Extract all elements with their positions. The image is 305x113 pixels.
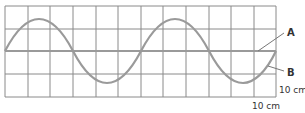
wave-diagram: A B 10 cm 10 cm <box>0 0 305 113</box>
label-b: B <box>287 67 295 78</box>
horizontal-scale-label: 10 cm <box>252 101 280 111</box>
vertical-scale-label: 10 cm <box>279 85 305 95</box>
label-a: A <box>287 27 295 38</box>
leader-a <box>258 33 284 51</box>
